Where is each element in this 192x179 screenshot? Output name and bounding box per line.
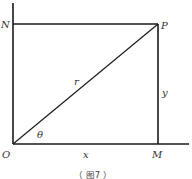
label-O: O — [2, 149, 10, 160]
label-N: N — [0, 19, 11, 30]
figure-caption: （ 图7 ） — [74, 170, 112, 179]
label-M: M — [151, 149, 163, 160]
label-y: y — [161, 87, 168, 98]
segment-OP-radius — [13, 24, 158, 144]
label-r: r — [74, 76, 80, 87]
label-x: x — [83, 149, 89, 160]
polar-coordinate-diagram: N P r y θ O x M （ 图7 ） — [0, 0, 192, 179]
label-theta: θ — [37, 129, 43, 140]
label-P: P — [160, 20, 168, 31]
